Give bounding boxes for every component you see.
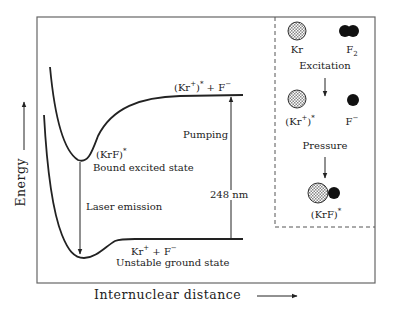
unstable-ground-state-label: Unstable ground state	[116, 258, 229, 268]
x-axis-label: Internuclear distance	[94, 289, 241, 302]
kr-atom-icon	[288, 22, 306, 40]
pressure-label: Pressure	[303, 141, 348, 151]
label-sup: *	[311, 114, 315, 122]
f2-atom-right-icon	[347, 25, 359, 37]
laser-emission-label: Laser emission	[86, 202, 162, 212]
y-axis-label-text: Energy	[13, 158, 28, 207]
kr-text: Kr	[291, 44, 303, 55]
f-ion-label: F−	[346, 115, 359, 127]
f2-sub: 2	[353, 50, 357, 58]
unstable-ground-state-text: Unstable ground state	[116, 257, 229, 268]
pumping-label: Pumping	[183, 130, 228, 140]
excited-asymptote-label: (Kr+)* + F−	[174, 81, 231, 93]
y-axis-label: Energy	[15, 158, 28, 207]
f2-text: F	[346, 44, 353, 55]
label-part: (Kr	[174, 82, 190, 93]
label-part: + F	[149, 246, 171, 257]
label-sup: −	[171, 244, 177, 252]
pressure-text: Pressure	[303, 140, 348, 151]
excitation-text: Excitation	[299, 60, 350, 71]
label-sup: −	[225, 80, 231, 88]
f2-label: F2	[346, 45, 357, 58]
excitation-label: Excitation	[299, 61, 350, 71]
bound-excited-state-label: Bound excited state	[93, 163, 194, 173]
krf-product-label: (KrF)*	[311, 208, 342, 220]
kr-ion-atom-icon	[288, 90, 306, 108]
laser-emission-text: Laser emission	[86, 201, 162, 212]
label-part: (KrF)	[311, 209, 338, 220]
f-ion-atom-icon	[347, 94, 359, 106]
krf-molecule-kr-icon	[308, 183, 328, 203]
x-axis-label-text: Internuclear distance	[94, 287, 241, 302]
wavelength-label: 248 nm	[209, 190, 249, 200]
krf-molecule-f-icon	[328, 187, 340, 199]
label-sup: *	[338, 207, 342, 215]
label-part: Kr	[131, 246, 143, 257]
label-sup: −	[353, 114, 359, 122]
krf-star: *	[123, 147, 127, 155]
krf-text: (KrF)	[96, 149, 123, 160]
label-part: F	[346, 116, 353, 127]
label-part: + F	[203, 82, 225, 93]
wavelength-text: 248 nm	[210, 189, 248, 200]
pumping-text: Pumping	[183, 129, 228, 140]
ground-asymptote-label: Kr+ + F−	[131, 245, 177, 257]
bound-excited-state-text: Bound excited state	[93, 162, 194, 173]
kr-ion-label: (Kr+)*	[285, 115, 314, 127]
krf-excited-label: (KrF)*	[96, 148, 127, 160]
label-part: (Kr	[285, 116, 301, 127]
kr-label: Kr	[291, 45, 303, 55]
